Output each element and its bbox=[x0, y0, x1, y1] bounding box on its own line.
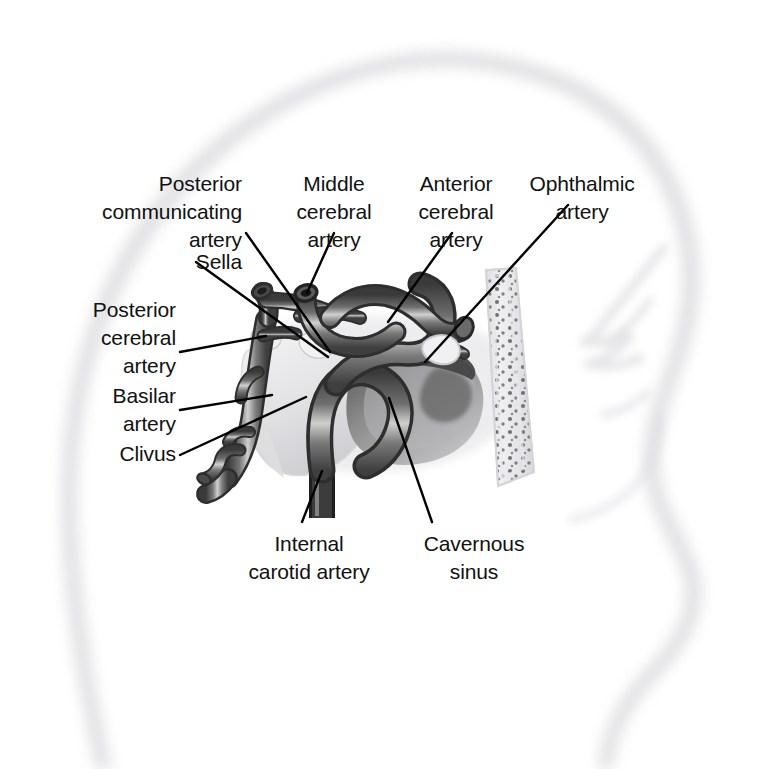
label-middle-cerebral-artery: Middlecerebralartery bbox=[278, 170, 390, 254]
label-line: cerebral bbox=[400, 198, 512, 226]
label-line: Basilar bbox=[38, 382, 176, 410]
label-line: cerebral bbox=[278, 198, 390, 226]
label-line: artery bbox=[28, 352, 176, 380]
label-cavernous-sinus: Cavernoussinus bbox=[398, 530, 550, 586]
label-line: artery bbox=[400, 226, 512, 254]
label-sella: Sella bbox=[102, 248, 242, 276]
label-basilar-artery: Basilarartery bbox=[38, 382, 176, 438]
label-line: Posterior bbox=[28, 296, 176, 324]
label-line: Internal bbox=[212, 530, 406, 558]
label-line: Posterior bbox=[62, 170, 242, 198]
label-line: Ophthalmic bbox=[518, 170, 646, 198]
label-posterior-communicating-artery: Posteriorcommunicatingartery bbox=[62, 170, 242, 254]
label-line: communicating bbox=[62, 198, 242, 226]
label-line: cerebral bbox=[28, 324, 176, 352]
label-line: Anterior bbox=[400, 170, 512, 198]
label-posterior-cerebral-artery: Posteriorcerebralartery bbox=[28, 296, 176, 380]
label-line: artery bbox=[278, 226, 390, 254]
label-clivus: Clivus bbox=[38, 440, 176, 468]
label-line: Middle bbox=[278, 170, 390, 198]
label-anterior-cerebral-artery: Anteriorcerebralartery bbox=[400, 170, 512, 254]
label-line: Cavernous bbox=[398, 530, 550, 558]
figure-page: PosteriorcommunicatingarteryMiddlecerebr… bbox=[0, 0, 761, 769]
label-ophthalmic-artery: Ophthalmicartery bbox=[518, 170, 646, 226]
label-line: carotid artery bbox=[212, 558, 406, 586]
label-line: sinus bbox=[398, 558, 550, 586]
label-internal-carotid-artery: Internalcarotid artery bbox=[212, 530, 406, 586]
label-line: Sella bbox=[102, 248, 242, 276]
label-line: artery bbox=[38, 410, 176, 438]
label-line: Clivus bbox=[38, 440, 176, 468]
label-line: artery bbox=[518, 198, 646, 226]
